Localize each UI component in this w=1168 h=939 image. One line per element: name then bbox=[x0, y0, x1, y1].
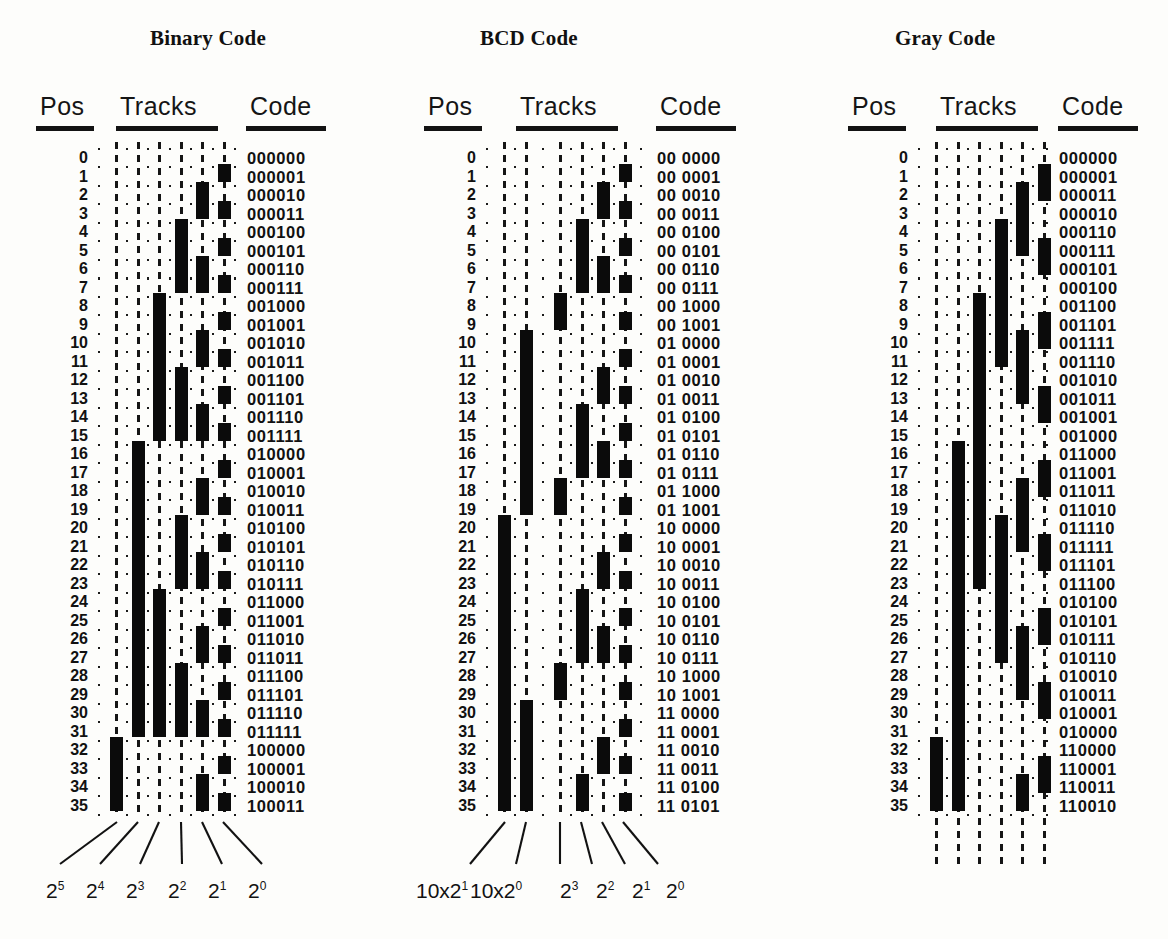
track-bar bbox=[1016, 774, 1029, 811]
track-bar bbox=[995, 219, 1008, 367]
track-bar bbox=[1038, 682, 1051, 719]
code-value: 001010 bbox=[1059, 372, 1118, 389]
code-value: 000100 bbox=[1059, 280, 1118, 297]
track-gap-dots bbox=[946, 148, 948, 824]
code-value: 110001 bbox=[1059, 761, 1117, 778]
code-value: 001101 bbox=[1059, 317, 1117, 334]
track-gap-dots bbox=[989, 148, 991, 824]
track-bar bbox=[1038, 164, 1051, 201]
track-bar bbox=[1016, 478, 1029, 552]
code-value: 001011 bbox=[1059, 391, 1117, 408]
code-value: 010010 bbox=[1059, 668, 1118, 685]
code-value: 011000 bbox=[1059, 446, 1117, 463]
code-value: 010100 bbox=[1059, 594, 1118, 611]
code-value: 010111 bbox=[1059, 631, 1116, 648]
code-value: 000111 bbox=[1059, 243, 1116, 260]
code-value: 000011 bbox=[1059, 187, 1117, 204]
code-value: 110011 bbox=[1059, 779, 1116, 796]
code-value: 010110 bbox=[1059, 650, 1117, 667]
code-value: 011011 bbox=[1059, 483, 1116, 500]
code-value: 001000 bbox=[1059, 428, 1118, 445]
code-value: 011111 bbox=[1059, 539, 1114, 556]
code-value: 011001 bbox=[1059, 465, 1117, 482]
code-value: 011110 bbox=[1059, 520, 1115, 537]
track-bar bbox=[1038, 238, 1051, 275]
track-gap-dots bbox=[1010, 148, 1012, 824]
code-value: 001111 bbox=[1059, 335, 1115, 352]
code-value: 001110 bbox=[1059, 354, 1116, 371]
code-value: 001001 bbox=[1059, 409, 1118, 426]
track-bar bbox=[995, 515, 1008, 663]
code-value: 010001 bbox=[1059, 705, 1118, 722]
track-bar bbox=[1016, 330, 1029, 404]
code-value: 110000 bbox=[1059, 742, 1117, 759]
code-value: 010011 bbox=[1059, 687, 1117, 704]
code-value: 011101 bbox=[1059, 557, 1116, 574]
track-bar bbox=[1038, 756, 1051, 793]
track-bar bbox=[1016, 182, 1029, 256]
track-bar bbox=[1016, 626, 1029, 700]
track-bar bbox=[1038, 608, 1051, 645]
code-value: 011010 bbox=[1059, 502, 1117, 519]
track-bar bbox=[1038, 386, 1051, 423]
code-column: 0000000000010000110000100001100001110001… bbox=[1059, 0, 1168, 939]
code-value: 010000 bbox=[1059, 724, 1118, 741]
track-gap-dots bbox=[967, 148, 969, 824]
code-value: 000101 bbox=[1059, 261, 1118, 278]
track-bar bbox=[1038, 460, 1051, 497]
code-value: 000001 bbox=[1059, 169, 1118, 186]
track-bar bbox=[952, 441, 965, 811]
track-bar bbox=[1038, 312, 1051, 349]
track-bar bbox=[1038, 534, 1051, 571]
code-value: 010101 bbox=[1059, 613, 1118, 630]
track-guide-dots-left bbox=[918, 148, 920, 824]
code-value: 000110 bbox=[1059, 224, 1117, 241]
code-value: 110010 bbox=[1059, 798, 1117, 815]
track-bar bbox=[930, 737, 943, 811]
tracks-column bbox=[0, 0, 1168, 939]
code-value: 000000 bbox=[1059, 150, 1118, 167]
code-value: 000010 bbox=[1059, 206, 1118, 223]
code-value: 001100 bbox=[1059, 298, 1117, 315]
code-value: 011100 bbox=[1059, 576, 1116, 593]
track-bar bbox=[973, 293, 986, 589]
track-gap-dots bbox=[1032, 148, 1034, 824]
